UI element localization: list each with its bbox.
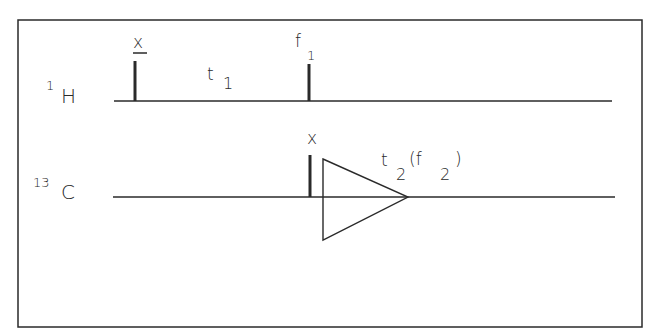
pulse-sequence-diagram: 1 H x t 1 f 1 13 C x — [0, 0, 647, 336]
delay-t1-label: t 1 — [207, 64, 233, 93]
acq-paren-main: (f — [409, 149, 422, 169]
channel-13C-mass: 13 — [33, 175, 50, 190]
channel-1H: 1 H x t 1 f 1 — [46, 31, 612, 108]
acq-paren-sub: 2 — [440, 165, 450, 184]
channel-13C-element: C — [61, 180, 75, 204]
pulse-phase-label: f — [295, 31, 301, 51]
acq-label-main: t — [381, 150, 388, 170]
pulse-1H-f1: f 1 — [295, 31, 315, 101]
pulse-phase-label: x — [133, 32, 143, 52]
acquisition-t2-f2: t 2 (f 2 ) — [323, 149, 462, 240]
delay-label-sub: 1 — [223, 74, 233, 93]
acq-paren-close: ) — [455, 149, 462, 169]
pulse-phase-label: x — [307, 128, 317, 148]
delay-label-main: t — [207, 64, 214, 84]
acq-label-sub: 2 — [396, 165, 406, 184]
pulse-13C-x: x — [307, 128, 317, 197]
pulse-phase-sub: 1 — [307, 48, 315, 63]
channel-13C: 13 C x t 2 (f 2 ) — [33, 128, 615, 240]
channel-1H-element: H — [61, 84, 76, 108]
channel-1H-mass: 1 — [46, 78, 54, 93]
diagram-frame — [18, 20, 642, 327]
pulse-1H-x-bar: x — [133, 32, 147, 101]
